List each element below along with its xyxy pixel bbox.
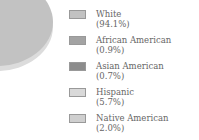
pie-slice-white [0, 0, 53, 66]
legend-label: Native American(2.0%) [96, 113, 169, 133]
legend-swatch [69, 10, 86, 19]
legend-swatch [69, 36, 86, 45]
legend-swatch [69, 114, 86, 123]
legend-label: White(94.1%) [96, 9, 130, 29]
legend-label: Asian American(0.7%) [96, 61, 164, 81]
legend-label: Hispanic(5.7%) [96, 87, 134, 107]
pie-chart [0, 0, 55, 75]
legend-swatch [69, 88, 86, 97]
legend-label: African American(0.9%) [96, 35, 171, 55]
legend-swatch [69, 62, 86, 71]
